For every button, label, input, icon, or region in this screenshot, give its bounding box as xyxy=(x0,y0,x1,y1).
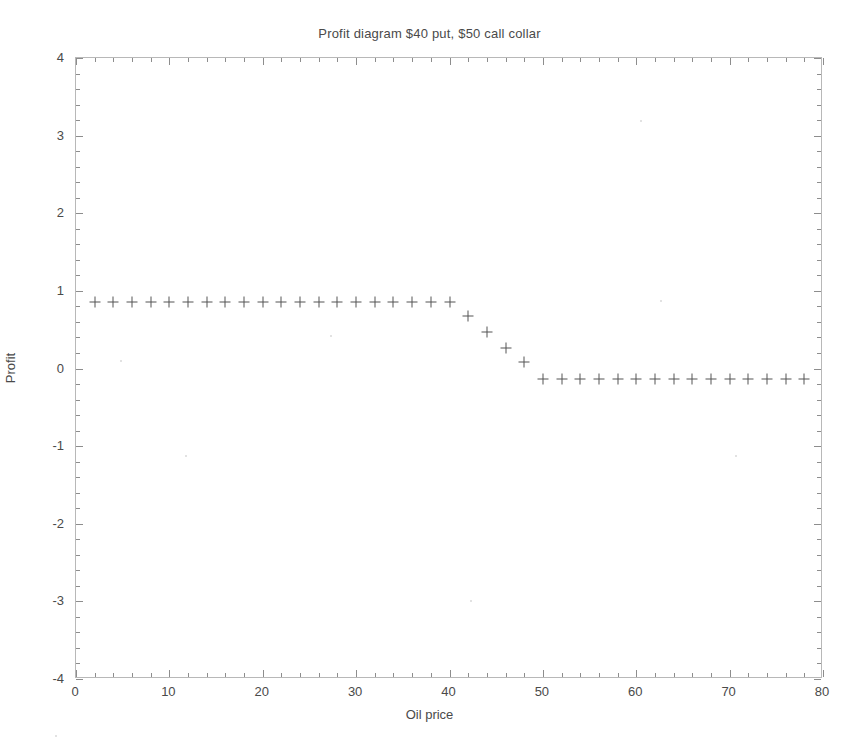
x-axis-minor-tick xyxy=(132,673,133,677)
x-axis-tick xyxy=(169,58,170,65)
y-axis-minor-tick xyxy=(817,260,821,261)
x-axis-minor-tick xyxy=(225,58,226,62)
x-axis-tick-label: 50 xyxy=(535,684,549,699)
x-axis-minor-tick xyxy=(319,58,320,62)
data-point-marker xyxy=(649,373,660,384)
data-point-marker xyxy=(444,296,455,307)
y-axis-minor-tick xyxy=(76,570,80,571)
y-axis-minor-tick xyxy=(76,353,80,354)
data-point-marker xyxy=(631,373,642,384)
y-axis-minor-tick xyxy=(76,648,80,649)
x-axis-minor-tick xyxy=(487,58,488,62)
y-axis-minor-tick xyxy=(817,337,821,338)
x-axis-minor-tick xyxy=(599,673,600,677)
y-axis-tick xyxy=(76,601,83,602)
x-axis-minor-tick xyxy=(95,58,96,62)
y-axis-tick-label: -1 xyxy=(18,438,64,453)
y-axis-minor-tick xyxy=(817,167,821,168)
x-axis-minor-tick xyxy=(524,58,525,62)
x-axis-minor-tick xyxy=(188,58,189,62)
x-axis-tick xyxy=(450,58,451,65)
data-point-marker xyxy=(593,373,604,384)
chart-title: Profit diagram $40 put, $50 call collar xyxy=(0,26,859,41)
x-axis-minor-tick xyxy=(711,673,712,677)
y-axis-minor-tick xyxy=(76,229,80,230)
y-axis-minor-tick xyxy=(817,477,821,478)
y-axis-minor-tick xyxy=(817,105,821,106)
y-axis-minor-tick xyxy=(817,648,821,649)
y-axis-minor-tick xyxy=(817,198,821,199)
y-axis-tick xyxy=(76,136,83,137)
x-axis-minor-tick xyxy=(580,58,581,62)
y-axis-minor-tick xyxy=(817,151,821,152)
x-axis-minor-tick xyxy=(132,58,133,62)
data-point-marker xyxy=(519,357,530,368)
y-axis-tick xyxy=(814,601,821,602)
y-axis-tick-label: 1 xyxy=(18,282,64,297)
y-axis-minor-tick xyxy=(817,74,821,75)
x-axis-minor-tick xyxy=(580,673,581,677)
y-axis-tick-label: 2 xyxy=(18,205,64,220)
data-point-marker xyxy=(761,373,772,384)
x-axis-tick xyxy=(730,58,731,65)
y-axis-minor-tick xyxy=(817,431,821,432)
y-axis-tick-label: 3 xyxy=(18,127,64,142)
x-axis-tick xyxy=(263,58,264,65)
data-point-marker xyxy=(127,296,138,307)
y-axis-minor-tick xyxy=(817,89,821,90)
y-axis-minor-tick xyxy=(76,431,80,432)
y-axis-minor-tick xyxy=(76,306,80,307)
y-axis-tick xyxy=(814,679,821,680)
y-axis-minor-tick xyxy=(817,229,821,230)
y-axis-minor-tick xyxy=(817,570,821,571)
y-axis-minor-tick xyxy=(76,539,80,540)
data-point-marker xyxy=(388,296,399,307)
x-axis-minor-tick xyxy=(151,58,152,62)
x-axis-label: Oil price xyxy=(0,707,859,722)
y-axis-minor-tick xyxy=(76,322,80,323)
y-axis-tick xyxy=(814,369,821,370)
x-axis-tick-label: 20 xyxy=(255,684,269,699)
data-point-marker xyxy=(500,343,511,354)
x-axis-minor-tick xyxy=(692,673,693,677)
scan-speckle xyxy=(55,735,57,737)
y-axis-tick xyxy=(76,58,83,59)
y-axis-tick xyxy=(76,213,83,214)
y-axis-minor-tick xyxy=(817,617,821,618)
y-axis-minor-tick xyxy=(76,508,80,509)
x-axis-tick-label: 60 xyxy=(628,684,642,699)
y-axis-minor-tick xyxy=(817,555,821,556)
y-axis-minor-tick xyxy=(76,632,80,633)
x-axis-minor-tick xyxy=(207,673,208,677)
x-axis-minor-tick xyxy=(95,673,96,677)
y-axis-tick-label: 4 xyxy=(18,50,64,65)
x-axis-minor-tick xyxy=(674,673,675,677)
y-axis-minor-tick xyxy=(817,632,821,633)
y-axis-minor-tick xyxy=(817,539,821,540)
y-axis-minor-tick xyxy=(817,415,821,416)
data-point-marker xyxy=(108,296,119,307)
y-axis-tick xyxy=(76,446,83,447)
x-axis-minor-tick xyxy=(113,58,114,62)
x-axis-minor-tick xyxy=(711,58,712,62)
x-axis-tick xyxy=(636,58,637,65)
x-axis-tick-label: 30 xyxy=(348,684,362,699)
data-point-marker xyxy=(556,373,567,384)
data-point-marker xyxy=(313,296,324,307)
data-point-marker xyxy=(351,296,362,307)
y-axis-tick xyxy=(76,524,83,525)
x-axis-tick xyxy=(636,670,637,677)
data-point-marker xyxy=(89,296,100,307)
y-axis-minor-tick xyxy=(76,89,80,90)
y-axis-minor-tick xyxy=(76,182,80,183)
x-axis-tick xyxy=(450,670,451,677)
x-axis-minor-tick xyxy=(468,673,469,677)
plot-box xyxy=(75,57,822,678)
y-axis-minor-tick xyxy=(76,167,80,168)
y-axis-tick-label: -2 xyxy=(18,515,64,530)
x-axis-minor-tick xyxy=(113,673,114,677)
y-axis-minor-tick xyxy=(76,663,80,664)
x-axis-tick-label: 70 xyxy=(721,684,735,699)
y-axis-label: Profit xyxy=(3,353,18,383)
x-axis-tick xyxy=(76,670,77,677)
